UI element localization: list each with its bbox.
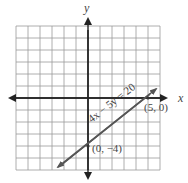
- coordinate-plane: [0, 0, 188, 183]
- point-5-0: [146, 96, 149, 99]
- point-0-neg4: [86, 144, 89, 147]
- point-label-0-neg4: (0, −4): [92, 143, 122, 154]
- point-label-5-0: (5, 0): [144, 102, 168, 113]
- y-axis-label: y: [84, 2, 89, 14]
- x-axis-label: x: [178, 92, 183, 104]
